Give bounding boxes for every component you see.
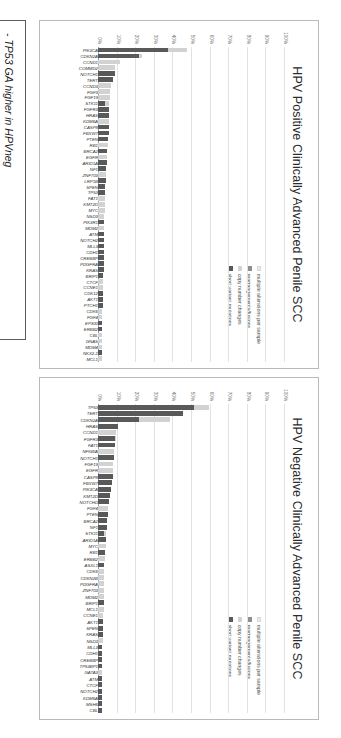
x-axis-gene-label: GNAS [86,338,98,343]
x-axis-gene-label: BRCA2 [84,148,98,153]
x-axis-gene-label: CTCF [86,682,98,687]
x-axis-gene-label: KMT2D [83,493,98,498]
plot-area-hpv-positive: 0%10%20%30%40%50%60%70%80%90%100% PIK3CA… [98,47,284,362]
bar-stack [98,556,105,561]
bar-stack [98,626,103,631]
bar-segment [98,327,102,332]
bar-stack [98,184,105,189]
y-axis-tick-label: 40% [171,392,176,401]
bar-segment [98,297,103,302]
bar-stack [98,309,102,314]
x-axis-gene-label: FGF3 [87,89,98,94]
x-axis-gene-label: KMT2D [83,202,98,207]
bar-stack [98,255,104,260]
bar-segment [139,54,143,59]
bar-stack [98,238,104,243]
x-axis-gene-label: MLL3 [87,645,98,650]
bar-stack [98,137,108,142]
bar-stack [98,89,110,94]
bar-stack [98,689,102,694]
x-axis-gene-label: PIK3CA [83,47,98,52]
x-axis-gene-label: CASP8 [84,474,98,479]
bar-segment [98,350,102,355]
x-axis-gene-label: CDKN2B [80,575,98,580]
bar-segment [98,607,104,612]
summary-notes-box: - TP53 GA higher in HPVneg - TERT GA hig… [0,20,26,340]
bar-stack [98,279,103,284]
bar-segment [98,499,109,504]
x-axis-gene-label: RB1 [90,550,98,555]
bar-segment [98,83,111,88]
y-axis-tick-label: 0% [97,37,102,44]
bar-stack [98,333,102,338]
bar-stack [98,345,102,350]
bar-segment [115,436,116,441]
bar-stack [98,166,106,171]
x-axis-gene-label: FGFR3 [84,107,98,112]
x-axis-gene-label: GATA3 [85,670,99,675]
bar-stack [98,670,102,675]
x-axis-gene-label: HRAS [86,113,98,118]
bar-segment [98,708,102,713]
x-axis-gene-label: PIK3CA [83,487,98,492]
bar-stack [98,273,103,278]
bar-segment [98,632,103,637]
x-axis-gene-label: FGFR3 [84,436,98,441]
x-axis-gene-label: CCND3 [83,83,98,88]
bar-segment [98,149,107,154]
bar-stack [98,651,102,656]
bar-segment [98,645,102,650]
bar-segment [98,531,104,536]
bar-stack [98,226,104,231]
bar-segment [98,71,115,76]
bar-segment [194,405,209,410]
bar-segment [98,172,106,177]
x-axis-gene-label: FGF19 [85,461,98,466]
x-axis-gene-label: TP53 [88,190,98,195]
bar-stack [98,411,183,416]
bar-segment [98,214,104,219]
x-axis-gene-label: BRCA2 [84,518,98,523]
x-axis-gene-label: STK11 [85,101,98,106]
bar-segment [98,664,102,669]
note-line: - TP53 GA higher in HPVneg [2,33,16,327]
bar-stack [98,638,103,643]
bar-segment [98,657,102,662]
bar-stack [98,113,109,118]
gridline: 100% [284,47,285,362]
bar-stack [98,632,103,637]
bar-stack [98,83,111,88]
x-axis-gene-label: CDKN2A [80,53,98,58]
y-axis-tick-label: 10% [115,392,120,401]
y-axis-tick-label: 50% [190,35,195,44]
bar-stack [98,250,104,255]
x-axis-gene-label: ATM [89,232,98,237]
x-axis-gene-label: NSD3 [86,638,98,643]
bar-stack [98,71,115,76]
bar-segment [98,238,104,243]
bar-stack [98,65,115,70]
y-axis-tick-label: 80% [245,35,250,44]
bar-segment [98,556,105,561]
y-axis-tick-label: 20% [134,35,139,44]
bar-stack [98,220,104,225]
y-axis-tick-label: 70% [227,35,232,44]
bar-stack [98,160,107,165]
x-axis-gene-label: ZNF703 [82,172,98,177]
x-axis-gene-label: NF1 [90,166,98,171]
bar-segment [168,48,186,53]
x-axis-gene-label: KRAS [86,632,98,637]
x-axis-gene-label: CREBBP [80,657,98,662]
x-axis-gene-label: KRAS [86,267,98,272]
bar-stack [98,588,104,593]
bar-segment [98,544,106,549]
chart-title-hpv-negative: HPV Negative Clinically Advanced Penile … [290,378,304,719]
bar-segment [98,101,105,106]
bar-segment [98,226,104,231]
bar-stack [98,60,120,65]
bar-stack [98,449,114,454]
bar-stack [98,48,187,53]
bar-stack [98,550,105,555]
bar-segment [98,60,120,65]
x-axis-gene-label: MDM4 [85,344,98,349]
